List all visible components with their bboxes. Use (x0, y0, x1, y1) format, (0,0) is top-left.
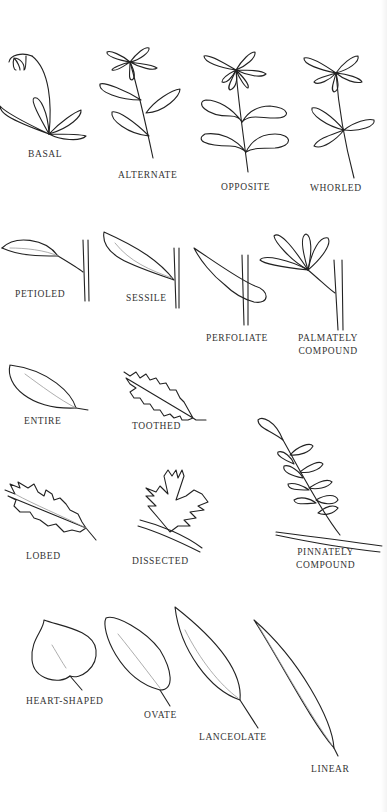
label-lanceolate: LANCEOLATE (199, 731, 267, 744)
heart-shaped-illustration (32, 620, 96, 690)
label-entire: ENTIRE (24, 415, 61, 428)
whorled-illustration (304, 56, 374, 178)
label-heart-shaped: HEART-SHAPED (26, 695, 104, 708)
lobed-illustration (5, 482, 96, 540)
palmately-compound-illustration (260, 234, 343, 330)
leaf-illustrations (0, 0, 387, 812)
perfoliate-illustration (194, 248, 266, 325)
label-opposite: OPPOSITE (221, 181, 270, 194)
label-lobed: LOBED (26, 550, 61, 563)
ovate-illustration (105, 617, 170, 706)
basal-illustration (0, 54, 86, 139)
label-palmately-compound: PALMATELY COMPOUND (298, 332, 358, 358)
label-sessile: SESSILE (126, 292, 167, 305)
toothed-illustration (124, 372, 206, 420)
alternate-illustration (100, 48, 180, 158)
label-toothed: TOOTHED (132, 420, 181, 433)
label-basal: BASAL (28, 148, 62, 161)
label-ovate: OVATE (144, 709, 177, 722)
label-dissected: DISSECTED (132, 555, 189, 568)
pinnately-compound-illustration (258, 419, 382, 552)
entire-illustration (9, 365, 88, 410)
dissected-illustration (138, 470, 208, 552)
opposite-illustration (201, 52, 288, 172)
leaf-types-plate: BASAL ALTERNATE OPPOSITE WHORLED PETIOLE… (0, 0, 387, 812)
label-petioled: PETIOLED (15, 288, 65, 301)
label-whorled: WHORLED (310, 182, 362, 195)
label-perfoliate: PERFOLIATE (206, 332, 268, 345)
page-edge-shadow (381, 0, 387, 812)
label-palmately-compound-line1: PALMATELY (298, 332, 358, 345)
label-palmately-compound-line2: COMPOUND (298, 345, 358, 358)
label-linear: LINEAR (311, 763, 349, 776)
label-pinnately-compound: PINNATELY COMPOUND (296, 546, 355, 572)
label-pinnately-compound-line1: PINNATELY (296, 546, 355, 559)
lanceolate-illustration (175, 607, 258, 728)
label-alternate: ALTERNATE (118, 169, 177, 182)
label-pinnately-compound-line2: COMPOUND (296, 559, 355, 572)
